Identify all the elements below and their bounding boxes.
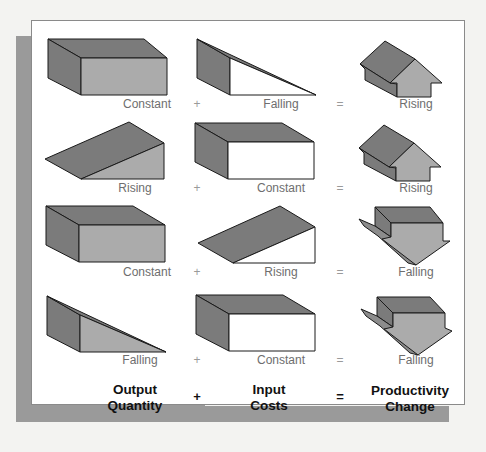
- input-label-row4: Constant: [226, 353, 336, 367]
- falling-wedge-icon: [196, 38, 321, 98]
- rising-wedge-icon: [44, 121, 169, 181]
- up-arrow-icon: [356, 124, 446, 184]
- equals-sign-row2: =: [330, 181, 350, 195]
- plus-sign-row3: +: [187, 265, 207, 279]
- input-costs-header: Input Costs: [209, 382, 329, 414]
- output-label-row4: Falling: [85, 353, 195, 367]
- productivity-label-row4: Falling: [361, 353, 471, 367]
- plus-sign-row2: +: [187, 181, 207, 195]
- constant-box-icon: [194, 122, 319, 182]
- constant-box-icon: [45, 205, 170, 265]
- constant-box-icon: [47, 38, 172, 98]
- output-label-row3: Constant: [92, 265, 202, 279]
- up-arrow-icon: [357, 40, 447, 100]
- input-label-row1: Falling: [226, 97, 336, 111]
- productivity-header-line1: Productivity: [350, 383, 470, 399]
- header-equals-sign: =: [330, 389, 350, 404]
- input-label-row3: Rising: [226, 265, 336, 279]
- down-arrow-icon: [360, 296, 450, 358]
- productivity-change-header: Productivity Change: [350, 383, 470, 415]
- input-header-line1: Input: [209, 382, 329, 398]
- input-header-line2: Costs: [209, 398, 329, 414]
- output-quantity-header: Output Quantity: [75, 382, 195, 414]
- equals-sign-row3: =: [330, 265, 350, 279]
- output-header-line2: Quantity: [75, 398, 195, 414]
- equals-sign-row1: =: [330, 97, 350, 111]
- output-header-line1: Output: [75, 382, 195, 398]
- equals-sign-row4: =: [330, 353, 350, 367]
- constant-box-icon: [195, 294, 320, 354]
- output-label-row1: Constant: [92, 97, 202, 111]
- rising-wedge-icon: [197, 205, 322, 265]
- productivity-label-row2: Rising: [361, 181, 471, 195]
- down-arrow-icon: [358, 206, 448, 268]
- productivity-label-row3: Falling: [361, 265, 471, 279]
- output-label-row2: Rising: [80, 181, 190, 195]
- plus-sign-row1: +: [187, 97, 207, 111]
- productivity-label-row1: Rising: [361, 97, 471, 111]
- header-plus-sign: +: [187, 389, 207, 404]
- productivity-header-line2: Change: [350, 399, 470, 415]
- input-label-row2: Constant: [226, 181, 336, 195]
- falling-wedge-icon: [46, 295, 171, 355]
- plus-sign-row4: +: [187, 353, 207, 367]
